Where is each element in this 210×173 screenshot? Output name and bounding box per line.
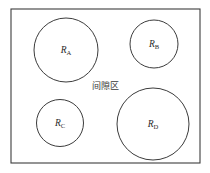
region-label-c-subscript: C xyxy=(61,122,66,129)
gap-region-label: 间隙区 xyxy=(92,80,119,91)
region-label-a-subscript: A xyxy=(67,49,72,56)
region-label-d-subscript: D xyxy=(154,123,159,130)
region-diagram: RA RB RC RD 间隙区 xyxy=(0,0,210,173)
region-label-b-subscript: B xyxy=(155,43,160,50)
diagram-canvas: RA RB RC RD 间隙区 xyxy=(0,0,210,173)
